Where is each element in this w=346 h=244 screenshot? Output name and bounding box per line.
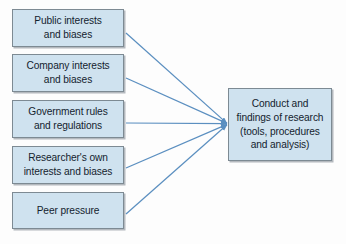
node-public-interests-label: Public interests and biases	[30, 14, 105, 42]
connector-company-to-outcome	[126, 78, 227, 123]
connector-researcher-to-outcome	[126, 124, 227, 168]
connector-government-to-outcome	[126, 123, 227, 124]
connector-public-to-outcome	[126, 33, 227, 123]
node-research-outcome-label: Conduct and findings of research (tools,…	[233, 97, 328, 152]
diagram-canvas: Public interests and biases Company inte…	[0, 0, 346, 244]
node-researcher-interests[interactable]: Researcher's own interests and biases	[12, 146, 124, 184]
node-research-outcome[interactable]: Conduct and findings of research (tools,…	[228, 88, 332, 161]
node-peer-pressure-label: Peer pressure	[33, 204, 104, 218]
node-public-interests[interactable]: Public interests and biases	[12, 9, 124, 47]
node-government-rules-label: Government rules and regulations	[24, 105, 111, 133]
node-peer-pressure[interactable]: Peer pressure	[12, 192, 124, 229]
node-researcher-interests-label: Researcher's own interests and biases	[20, 151, 117, 179]
node-company-interests-label: Company interests and biases	[22, 59, 113, 87]
node-government-rules[interactable]: Government rules and regulations	[12, 100, 124, 138]
connector-peer-to-outcome	[126, 125, 227, 214]
node-company-interests[interactable]: Company interests and biases	[12, 54, 124, 92]
